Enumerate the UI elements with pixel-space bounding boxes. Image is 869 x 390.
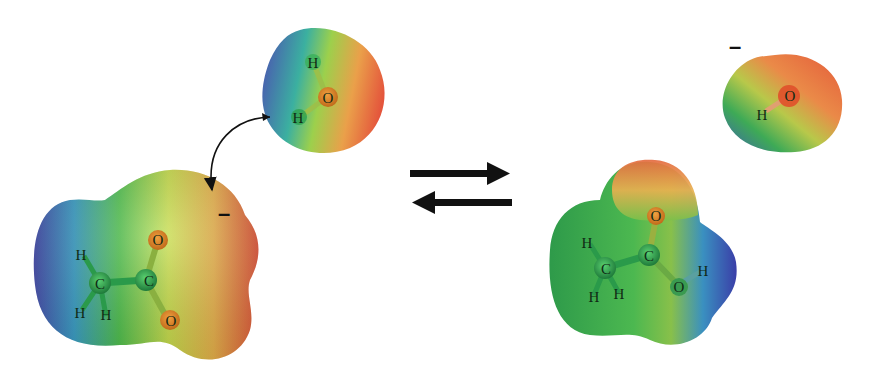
acid-hydrogen-label: H xyxy=(582,236,593,251)
hydroxide-hydrogen-label: H xyxy=(757,108,768,123)
acetate-hydrogen-label: H xyxy=(101,308,112,323)
acid-carbon-label: C xyxy=(644,249,654,264)
acetate-hydrogen-label: H xyxy=(75,306,86,321)
acetate-carbon-label: C xyxy=(95,277,105,292)
water-oxygen-label: O xyxy=(323,91,334,106)
reverse-arrow-icon xyxy=(412,191,435,214)
acetate-oxygen-label: O xyxy=(153,233,164,248)
equilibrium-arrows xyxy=(410,162,512,214)
acid-oxygen-label: O xyxy=(674,280,685,295)
acetate-oxygen-label: O xyxy=(166,314,177,329)
acetate-hydrogen-label: H xyxy=(76,248,87,263)
acetate-negative-charge: – xyxy=(218,203,230,225)
water-hydrogen-label: H xyxy=(293,111,304,126)
acetate-ion xyxy=(34,170,259,360)
acetate-carbon-label: C xyxy=(144,274,154,289)
proton-transfer-arrow xyxy=(211,117,270,190)
acid-carbon-label: C xyxy=(601,262,611,277)
acid-hydrogen-label: H xyxy=(698,264,709,279)
water-hydrogen-label: H xyxy=(308,56,319,71)
hydroxide-ion xyxy=(723,54,843,152)
acid-oxygen-label: O xyxy=(651,209,662,224)
forward-arrow-icon xyxy=(487,162,510,185)
acid-hydrogen-label: H xyxy=(614,287,625,302)
hydroxide-negative-charge: – xyxy=(729,36,741,58)
hydroxide-oxygen-label: O xyxy=(785,89,796,104)
acid-hydrogen-label: H xyxy=(589,290,600,305)
